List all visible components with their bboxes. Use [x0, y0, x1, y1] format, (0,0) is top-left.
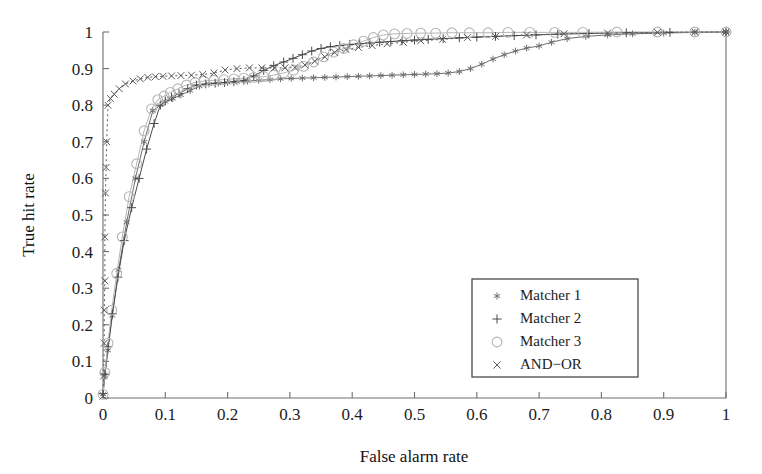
series-marker-4 — [168, 73, 175, 80]
series-marker-4 — [321, 53, 328, 60]
series-marker-2 — [326, 42, 335, 51]
x-tick-label: 1 — [722, 405, 731, 424]
legend-label-2: Matcher 2 — [520, 310, 581, 326]
series-marker-4 — [400, 39, 407, 46]
y-tick-label: 0.3 — [72, 279, 93, 298]
series-marker-1 — [512, 48, 518, 55]
y-tick-label: 0.6 — [72, 169, 93, 188]
x-tick-label: 0 — [99, 405, 108, 424]
y-tick-label: 0.5 — [72, 206, 93, 225]
x-tick-labels: 00.10.20.30.40.50.60.70.80.91 — [99, 405, 731, 424]
y-axis-title: True hit rate — [19, 173, 38, 256]
x-axis-title: False alarm rate — [360, 447, 469, 466]
series-marker-4 — [439, 36, 446, 43]
y-tick-label: 0.4 — [72, 243, 94, 262]
series-marker-2 — [622, 28, 631, 37]
y-tick-label: 1 — [85, 23, 94, 42]
series-marker-2 — [532, 31, 541, 40]
series-marker-4 — [246, 64, 253, 71]
series-marker-4 — [152, 73, 159, 80]
legend: Matcher 1Matcher 2Matcher 3AND−OR — [472, 279, 638, 377]
x-tick-label: 0.1 — [155, 405, 176, 424]
series-marker-2 — [150, 119, 159, 128]
x-tick-label: 0.9 — [653, 405, 674, 424]
series-marker-1 — [490, 56, 496, 63]
series-marker-1 — [479, 61, 485, 68]
x-tick-label: 0.3 — [279, 405, 300, 424]
series-marker-4 — [311, 58, 318, 65]
x-tick-label: 0.5 — [404, 405, 425, 424]
series-marker-2 — [307, 47, 316, 56]
series-marker-4 — [188, 72, 195, 79]
legend-label-1: Matcher 1 — [520, 287, 581, 303]
series-marker-1 — [501, 51, 507, 58]
series-marker-4 — [222, 67, 229, 74]
x-tick-label: 0.8 — [591, 405, 612, 424]
roc-chart-figure: 00.10.20.30.40.50.60.70.80.91 00.10.20.3… — [0, 0, 762, 474]
series-marker-4 — [177, 72, 184, 79]
roc-plot-svg: 00.10.20.30.40.50.60.70.80.91 00.10.20.3… — [0, 0, 762, 474]
y-tick-label: 0.1 — [72, 352, 93, 371]
y-tick-label: 0.2 — [72, 316, 93, 335]
y-tick-labels: 00.10.20.30.40.50.60.70.80.91 — [72, 23, 94, 408]
y-tick-label: 0.7 — [72, 133, 94, 152]
series-marker-2 — [298, 50, 307, 59]
y-tick-label: 0.9 — [72, 60, 93, 79]
series-marker-4 — [122, 81, 129, 88]
series-marker-1 — [468, 65, 474, 72]
series-marker-4 — [116, 85, 123, 92]
series-marker-2 — [289, 54, 298, 63]
y-tick-label: 0 — [85, 389, 94, 408]
x-tick-label: 0.2 — [217, 405, 238, 424]
series-marker-4 — [130, 78, 137, 85]
x-tick-label: 0.6 — [466, 405, 487, 424]
series-marker-2 — [279, 58, 288, 67]
series-marker-2 — [666, 28, 675, 37]
y-tick-label: 0.8 — [72, 96, 93, 115]
legend-label-3: Matcher 3 — [520, 333, 581, 349]
series-marker-4 — [234, 65, 241, 72]
x-tick-label: 0.7 — [528, 405, 550, 424]
series-marker-4 — [137, 75, 144, 82]
x-tick-label: 0.4 — [342, 405, 364, 424]
legend-label-4: AND−OR — [520, 356, 582, 372]
